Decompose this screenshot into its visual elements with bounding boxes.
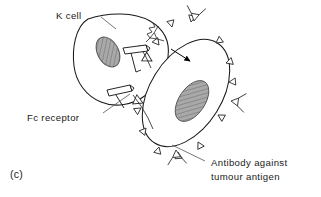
label-fc-receptor: Fc receptor <box>27 112 80 123</box>
label-antibody-line2: tumour antigen <box>211 171 280 182</box>
panel-label: (c) <box>10 168 23 180</box>
figure-panel: K cell Fc receptor Antibody against tumo… <box>0 0 321 197</box>
label-k-cell: K cell <box>56 10 82 21</box>
adcc-diagram: K cell Fc receptor Antibody against tumo… <box>0 0 321 197</box>
label-antibody-line1: Antibody against <box>211 157 288 168</box>
